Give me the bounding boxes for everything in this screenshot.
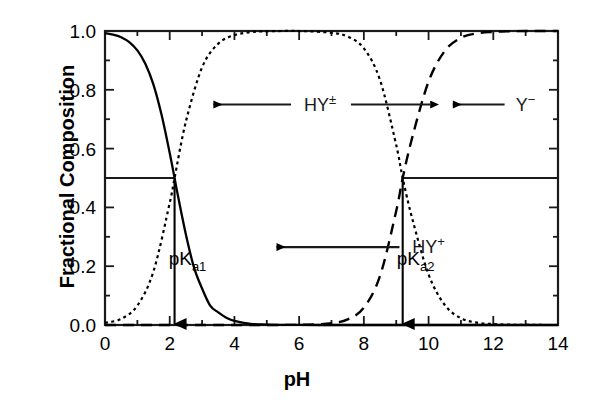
x-tick-label: 12: [483, 333, 504, 354]
y-tick-label: 0.8: [70, 80, 96, 101]
x-tick-label: 2: [164, 333, 175, 354]
hy-zwitter-label: HY±: [304, 92, 336, 115]
x-tick-label: 14: [547, 333, 569, 354]
x-tick-label: 10: [418, 333, 439, 354]
x-tick-label: 6: [294, 333, 305, 354]
x-tick-label: 4: [229, 333, 240, 354]
y-tick-label: 0.0: [70, 315, 96, 336]
y-tick-label: 0.2: [70, 256, 96, 277]
y-minus-label: Y−: [516, 92, 536, 115]
annotation-y-minus: Y−: [453, 92, 536, 115]
curve-HY: [105, 33, 558, 325]
tick-labels: 024681012140.00.20.40.60.81.0: [70, 21, 569, 354]
annotation-pka1: pKa1: [169, 178, 207, 324]
fractional-composition-plot: HY+HY±Y−pKa1pKa2 024681012140.00.20.40.6…: [0, 0, 594, 408]
x-tick-label: 0: [100, 333, 111, 354]
annotations: HY+HY±Y−pKa1pKa2: [169, 92, 536, 325]
annotation-hy-zwitter: HY±: [213, 92, 430, 115]
y-tick-label: 0.4: [70, 197, 97, 218]
chart-root: Fractional Composition pH HY+HY±Y−pKa1pK…: [0, 0, 594, 408]
y-tick-label: 0.6: [70, 139, 96, 160]
y-tick-label: 1.0: [70, 21, 96, 42]
x-tick-label: 8: [359, 333, 370, 354]
